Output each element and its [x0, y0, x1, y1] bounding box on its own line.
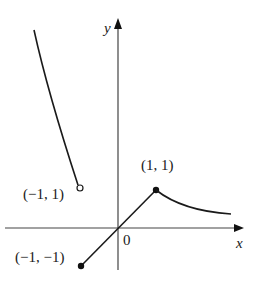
open-point-m1-1 [77, 185, 83, 191]
left-branch-curve [34, 30, 78, 185]
origin-label: 0 [123, 232, 131, 248]
function-graph: y x 0 (1, 1) (−1, 1) (−1, −1) [0, 0, 254, 284]
label-point-m1-m1: (−1, −1) [15, 249, 64, 266]
x-axis-label: x [235, 235, 243, 251]
x-axis-arrow-icon [234, 224, 244, 232]
filled-point-m1-m1 [78, 263, 84, 269]
y-axis-label: y [102, 20, 111, 36]
right-branch-curve [156, 190, 231, 214]
label-point-1-1: (1, 1) [141, 157, 174, 174]
label-point-m1-1: (−1, 1) [23, 186, 64, 203]
y-axis-arrow-icon [114, 18, 122, 29]
